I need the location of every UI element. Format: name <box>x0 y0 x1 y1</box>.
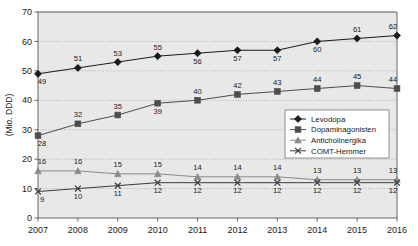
x-axis-tick-label: 2013 <box>267 225 287 235</box>
data-point-label: 13 <box>313 166 321 175</box>
data-point-label: 61 <box>353 25 361 34</box>
data-point-label: 55 <box>153 43 161 52</box>
data-point-label: 12 <box>353 186 361 195</box>
x-axis-tick-label: 2008 <box>68 225 88 235</box>
data-point-label: 43 <box>273 78 281 87</box>
y-axis-tick-label: 0 <box>27 213 32 223</box>
data-point-label: 45 <box>353 72 361 81</box>
y-axis-tick-label: 60 <box>22 37 32 47</box>
data-point-label: 28 <box>38 139 46 148</box>
data-point-marker <box>35 133 41 139</box>
data-point-marker <box>75 121 81 127</box>
data-point-label: 14 <box>233 163 241 172</box>
x-axis-tick-label: 2011 <box>188 225 207 235</box>
x-axis-tick-label: 2012 <box>227 225 247 235</box>
y-axis-tick-label: 10 <box>22 184 32 194</box>
data-point-label: 15 <box>114 160 122 169</box>
data-point-label: 57 <box>273 54 281 63</box>
x-axis-tick-label: 2010 <box>148 225 168 235</box>
data-point-label: 12 <box>389 186 397 195</box>
y-axis-tick-label: 40 <box>22 95 32 105</box>
data-point-marker <box>295 127 301 133</box>
data-point-label: 14 <box>193 163 201 172</box>
x-axis-tick-label: 2009 <box>108 225 128 235</box>
data-point-marker <box>354 83 360 89</box>
y-axis-title: (Mio. DDD) <box>4 94 14 137</box>
data-point-label: 44 <box>389 75 397 84</box>
legend-label-0: Levodopa <box>311 115 346 124</box>
data-point-label: 14 <box>273 163 281 172</box>
data-point-label: 16 <box>74 157 82 166</box>
data-point-label: 35 <box>114 102 122 111</box>
data-point-label: 12 <box>233 186 241 195</box>
x-axis-tick-label: 2014 <box>307 225 327 235</box>
data-point-marker <box>394 86 400 92</box>
data-point-label: 44 <box>313 75 321 84</box>
chart-figure: 010203040506070(Mio. DDD)200720082009201… <box>0 0 418 246</box>
data-point-marker <box>195 97 201 103</box>
y-axis-tick-label: 70 <box>22 7 32 17</box>
data-point-label: 9 <box>40 195 44 204</box>
y-axis-tick-label: 30 <box>22 125 32 135</box>
legend-label-2: Anticholinergika <box>311 136 367 145</box>
data-point-label: 56 <box>193 57 201 66</box>
data-point-label: 51 <box>74 54 82 63</box>
data-point-label: 42 <box>233 81 241 90</box>
x-axis-tick-label: 2015 <box>347 225 367 235</box>
data-point-label: 13 <box>353 166 361 175</box>
data-point-label: 62 <box>389 22 397 31</box>
data-point-marker <box>115 112 121 118</box>
x-axis-tick-label: 2007 <box>28 225 48 235</box>
line-chart-canvas: 010203040506070(Mio. DDD)200720082009201… <box>0 0 418 246</box>
data-point-label: 49 <box>38 77 46 86</box>
data-point-label: 39 <box>153 107 161 116</box>
data-point-label: 57 <box>233 54 241 63</box>
data-point-label: 12 <box>313 186 321 195</box>
legend-label-3: COMT-Hemmer <box>311 147 366 156</box>
legend-label-1: Dopaminagonisten <box>311 125 376 134</box>
data-point-label: 32 <box>74 110 82 119</box>
data-point-label: 60 <box>313 45 321 54</box>
data-point-marker <box>314 86 320 92</box>
data-point-label: 11 <box>114 189 122 198</box>
data-point-label: 12 <box>273 186 281 195</box>
data-point-label: 15 <box>153 160 161 169</box>
data-point-marker <box>274 89 280 95</box>
data-point-label: 53 <box>114 49 122 58</box>
data-point-label: 16 <box>38 157 46 166</box>
data-point-marker <box>155 100 161 106</box>
y-axis-tick-label: 50 <box>22 66 32 76</box>
data-point-label: 10 <box>74 192 82 201</box>
data-point-label: 40 <box>193 87 201 96</box>
data-point-label: 13 <box>389 166 397 175</box>
y-axis-tick-label: 20 <box>22 154 32 164</box>
x-axis-tick-label: 2016 <box>387 225 407 235</box>
data-point-label: 12 <box>193 186 201 195</box>
data-point-label: 12 <box>153 186 161 195</box>
data-point-marker <box>235 92 241 98</box>
